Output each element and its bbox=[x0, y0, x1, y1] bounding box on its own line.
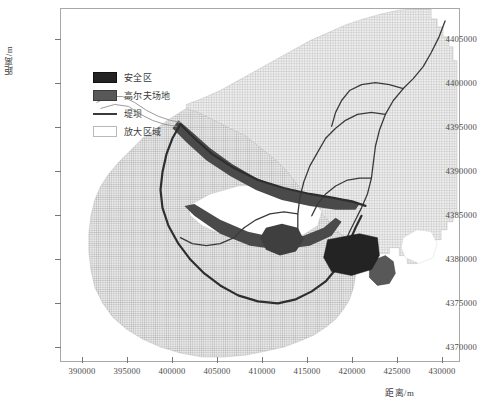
y-tick-label: 4375000 bbox=[423, 298, 477, 308]
legend-item-safe-zone: 安全区 bbox=[93, 69, 189, 86]
legend-item-zoom-area: 放大区域 bbox=[93, 123, 189, 140]
y-tick-mark bbox=[55, 347, 61, 348]
legend-swatch-zoom-area bbox=[93, 126, 117, 137]
legend-swatch-golf-course bbox=[93, 90, 117, 101]
y-tick-mark bbox=[55, 83, 61, 84]
y-axis-title: 距离/m bbox=[2, 46, 15, 75]
y-tick-label: 4395000 bbox=[423, 122, 477, 132]
x-tick-mark bbox=[127, 357, 128, 363]
map-canvas bbox=[61, 9, 459, 361]
x-tick-label: 430000 bbox=[412, 366, 472, 376]
legend-label-golf-course: 高尔夫场地 bbox=[124, 89, 171, 102]
plot-frame: 安全区 高尔夫场地 堤坝 放大区域 bbox=[60, 8, 460, 362]
y-tick-mark bbox=[55, 127, 61, 128]
x-tick-mark bbox=[442, 357, 443, 363]
legend: 安全区 高尔夫场地 堤坝 放大区域 bbox=[93, 69, 189, 141]
y-tick-label: 4400000 bbox=[423, 78, 477, 88]
map-svg bbox=[61, 9, 459, 361]
legend-item-dike: 堤坝 bbox=[93, 105, 189, 122]
map-figure: 安全区 高尔夫场地 堤坝 放大区域 4405000 4400000 bbox=[0, 0, 477, 416]
x-tick-mark bbox=[82, 357, 83, 363]
legend-swatch-safe-zone bbox=[93, 72, 117, 83]
y-tick-mark bbox=[55, 303, 61, 304]
y-tick-mark bbox=[55, 215, 61, 216]
y-tick-mark bbox=[55, 259, 61, 260]
y-tick-mark bbox=[55, 171, 61, 172]
y-tick-mark bbox=[55, 39, 61, 40]
x-tick-mark bbox=[352, 357, 353, 363]
y-tick-label: 4405000 bbox=[423, 34, 477, 44]
x-tick-mark bbox=[307, 357, 308, 363]
x-tick-mark bbox=[172, 357, 173, 363]
y-tick-label: 4380000 bbox=[423, 254, 477, 264]
y-tick-label: 4390000 bbox=[423, 166, 477, 176]
x-tick-mark bbox=[262, 357, 263, 363]
x-axis-title: 距离/m bbox=[385, 386, 414, 399]
legend-label-safe-zone: 安全区 bbox=[124, 71, 152, 84]
legend-swatch-dike bbox=[93, 108, 117, 119]
y-tick-label: 4370000 bbox=[423, 342, 477, 352]
legend-label-zoom-area: 放大区域 bbox=[124, 125, 161, 138]
x-tick-mark bbox=[397, 357, 398, 363]
safe-zone-polygon bbox=[324, 234, 380, 276]
legend-label-dike: 堤坝 bbox=[124, 107, 143, 120]
x-tick-mark bbox=[217, 357, 218, 363]
legend-item-golf-course: 高尔夫场地 bbox=[93, 87, 189, 104]
y-tick-label: 4385000 bbox=[423, 210, 477, 220]
